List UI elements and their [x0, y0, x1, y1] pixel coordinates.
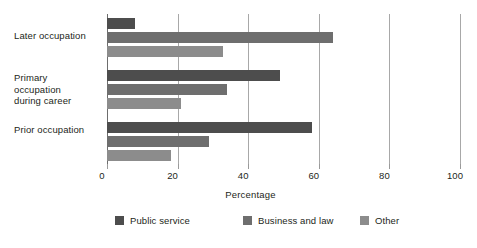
bar [107, 46, 223, 57]
x-tick-label: 40 [238, 170, 249, 181]
legend-item-public-service[interactable]: Public service [115, 213, 190, 227]
legend-swatch-icon [115, 216, 124, 225]
x-tick-mark-100 [460, 164, 461, 169]
category-label-line: during career [14, 95, 71, 106]
bar [107, 136, 209, 147]
gridline-100 [460, 14, 461, 164]
x-tick-mark-0 [107, 164, 108, 169]
category-label-line: Later occupation [14, 30, 86, 41]
x-axis-title-text: Percentage [225, 189, 276, 200]
category-label-line: Prior occupation [14, 124, 84, 135]
legend: Public serviceBusiness and lawOther [0, 213, 477, 231]
bar [107, 122, 312, 133]
x-tick-label: 60 [308, 170, 319, 181]
legend-swatch-icon [243, 216, 252, 225]
legend-item-other[interactable]: Other [360, 213, 399, 227]
x-axis-title: Percentage [0, 189, 477, 200]
bar-chart: Later occupation Primary occupation duri… [0, 0, 477, 248]
category-axis-labels: Later occupation Primary occupation duri… [0, 14, 100, 164]
legend-swatch-icon [360, 216, 369, 225]
category-label-line: Primary occupation [14, 72, 61, 95]
legend-label: Public service [130, 215, 190, 226]
legend-item-business-and-law[interactable]: Business and law [243, 213, 334, 227]
category-label-prior-occupation: Prior occupation [14, 124, 92, 136]
plot-area [107, 14, 460, 164]
category-label-primary-occupation: Primary occupation during career [14, 72, 92, 107]
bar [107, 18, 135, 29]
x-tick-label: 0 [99, 170, 104, 181]
legend-label: Other [375, 215, 399, 226]
bar [107, 98, 181, 109]
x-tick-label: 80 [379, 170, 390, 181]
x-tick-mark-80 [389, 164, 390, 169]
bar [107, 150, 171, 161]
x-tick-mark-20 [178, 164, 179, 169]
bar [107, 32, 333, 43]
legend-label: Business and law [258, 215, 334, 226]
bar [107, 70, 280, 81]
x-tick-mark-60 [319, 164, 320, 169]
x-tick-label: 20 [167, 170, 178, 181]
bar [107, 84, 227, 95]
category-label-later-occupation: Later occupation [14, 30, 92, 42]
x-tick-mark-40 [248, 164, 249, 169]
bars-layer [107, 14, 460, 164]
x-tick-label: 100 [447, 170, 463, 181]
